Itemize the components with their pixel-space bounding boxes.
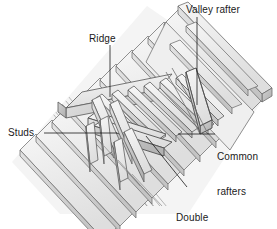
roof-framing-illustration: Valley rafter Ridge Studs Common rafters… (0, 0, 277, 229)
label-common-rafters-line2: rafters (217, 186, 258, 198)
label-common-rafters-line1: Common (217, 151, 258, 163)
label-valley-rafter: Valley rafter (186, 4, 240, 16)
label-double-header: Double header (176, 189, 208, 229)
label-studs: Studs (8, 127, 34, 139)
label-common-rafters: Common rafters (217, 128, 258, 220)
label-double-header-line1: Double (176, 212, 208, 224)
label-ridge: Ridge (89, 33, 116, 45)
